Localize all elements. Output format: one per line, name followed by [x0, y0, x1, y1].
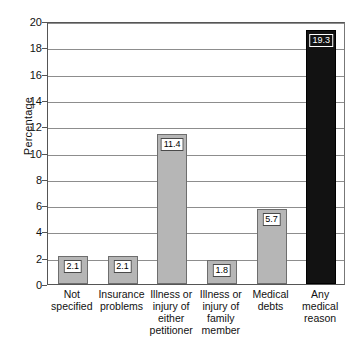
- y-axis-tick-label: 14: [12, 95, 42, 106]
- y-axis-tick-label: 8: [12, 174, 42, 185]
- x-axis-category-label: Illness orinjury ofeitherpetitioner: [146, 288, 196, 336]
- gridline: [48, 155, 344, 156]
- x-axis-category-label: Anymedicalreason: [295, 288, 345, 324]
- bar: 19.3: [306, 30, 336, 284]
- y-axis-tick-label: 12: [12, 122, 42, 133]
- x-axis-category-line: injury of: [146, 300, 196, 312]
- bar-value-label: 5.7: [262, 213, 281, 226]
- y-axis-tick-label: 20: [12, 17, 42, 28]
- y-axis-tick-label: 4: [12, 227, 42, 238]
- bar-value-label: 2.1: [113, 260, 132, 273]
- bar-value-label: 11.4: [161, 138, 184, 151]
- x-axis-category-line: medical: [295, 300, 345, 312]
- bar: 2.1: [58, 256, 88, 284]
- bar: 2.1: [108, 256, 138, 284]
- bar-value-label: 19.3: [309, 34, 333, 47]
- x-axis-category-line: specified: [47, 300, 97, 312]
- x-axis-category-line: reason: [295, 312, 345, 324]
- x-axis-category-line: problems: [97, 300, 147, 312]
- x-axis-category-line: Illness or: [146, 288, 196, 300]
- x-axis-category-line: Insurance: [97, 288, 147, 300]
- x-axis-category-label: Insuranceproblems: [97, 288, 147, 312]
- x-axis-category-line: Not: [47, 288, 97, 300]
- gridline: [48, 181, 344, 182]
- bar: 11.4: [157, 134, 187, 284]
- bar-chart: Percentage 02468101214161820 2.12.111.41…: [0, 0, 360, 349]
- x-axis-category-line: Any: [295, 288, 345, 300]
- bar-value-label: 2.1: [64, 260, 83, 273]
- gridline: [48, 76, 344, 77]
- y-axis-tick-label: 0: [12, 280, 42, 291]
- x-axis-category-line: Medical: [246, 288, 296, 300]
- gridline: [48, 49, 344, 50]
- bar: 1.8: [207, 260, 237, 284]
- gridline: [48, 102, 344, 103]
- bar-value-label: 1.8: [213, 264, 232, 277]
- y-axis-tick-label: 18: [12, 43, 42, 54]
- y-axis-tick-label: 6: [12, 201, 42, 212]
- gridline: [48, 128, 344, 129]
- x-axis-category-line: debts: [246, 300, 296, 312]
- x-axis-category-labels: NotspecifiedInsuranceproblemsIllness ori…: [47, 288, 345, 348]
- y-axis-tick-label: 16: [12, 69, 42, 80]
- gridline: [48, 23, 344, 24]
- x-axis-category-line: family: [196, 312, 246, 324]
- x-axis-category-label: Illness orinjury offamilymember: [196, 288, 246, 336]
- gridline: [48, 260, 344, 261]
- x-axis-category-label: Notspecified: [47, 288, 97, 312]
- plot-area: 2.12.111.41.85.719.3: [47, 22, 345, 285]
- gridline: [48, 233, 344, 234]
- x-axis-category-line: injury of: [196, 300, 246, 312]
- gridline: [48, 207, 344, 208]
- y-axis-tick-label: 2: [12, 253, 42, 264]
- x-axis-category-line: petitioner: [146, 324, 196, 336]
- x-axis-category-line: either: [146, 312, 196, 324]
- bar: 5.7: [257, 209, 287, 284]
- y-axis-tick-label: 10: [12, 148, 42, 159]
- x-axis-category-label: Medicaldebts: [246, 288, 296, 312]
- x-axis-category-line: member: [196, 324, 246, 336]
- x-axis-category-line: Illness or: [196, 288, 246, 300]
- y-axis-tick-mark: [42, 285, 47, 286]
